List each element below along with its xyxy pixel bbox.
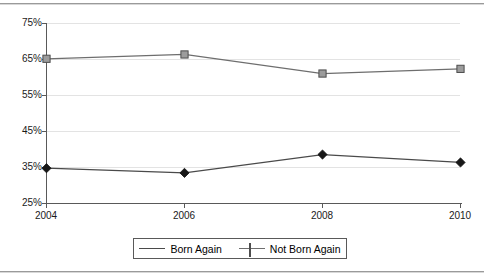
legend-swatch-born-again <box>139 244 165 254</box>
legend-line-born-again <box>139 248 165 249</box>
legend-swatch-not-born-again <box>239 244 265 254</box>
x-tick-label-2010: 2010 <box>437 210 483 221</box>
chart-title <box>0 0 484 2</box>
x-tick-label-2006: 2006 <box>161 210 207 221</box>
legend-entry-not-born-again[interactable]: Not Born Again <box>239 243 341 255</box>
bottom-divider-rule-shadow <box>0 272 484 273</box>
legend-line-not-born-again <box>239 248 265 249</box>
figure-container: 75% 65% 55% 45% 35% 25% 2004 2006 2008 2… <box>0 0 484 279</box>
top-divider-rule-shadow <box>0 4 484 5</box>
chart-legend: Born Again Not Born Again <box>133 238 347 259</box>
x-tick-label-2008: 2008 <box>299 210 345 221</box>
legend-label-not-born-again: Not Born Again <box>270 243 341 255</box>
square-marker-icon <box>248 244 251 256</box>
legend-label-born-again: Born Again <box>170 243 221 255</box>
legend-entry-born-again[interactable]: Born Again <box>139 243 221 255</box>
x-axis-tick-labels: 2004 2006 2008 2010 <box>0 10 484 235</box>
plot-area: 75% 65% 55% 45% 35% 25% 2004 2006 2008 2… <box>0 10 484 235</box>
x-tick-label-2004: 2004 <box>23 210 69 221</box>
